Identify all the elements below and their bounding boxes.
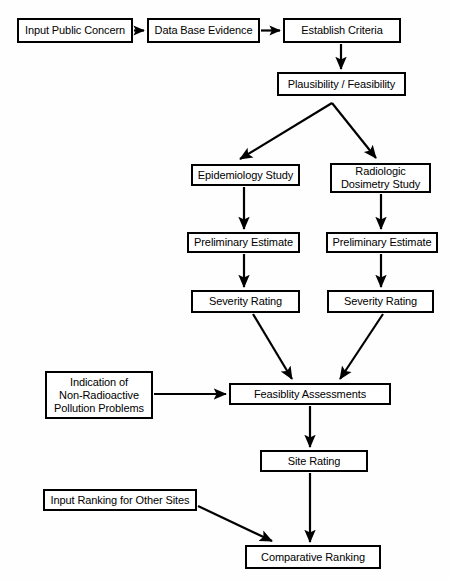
edge-severity-left-to-feasibility [253,314,292,379]
edge-plausibility-to-radiologic [332,103,376,158]
node-indication-non-radioactive[interactable]: Indication of Non-Radioactive Pollution … [45,371,153,419]
node-preliminary-estimate-left[interactable]: Preliminary Estimate [187,232,300,253]
node-epidemiology-study[interactable]: Epidemiology Study [191,164,300,186]
node-feasibility-assessments[interactable]: Feasiblity Assessments [229,383,391,405]
node-plausibility-feasibility[interactable]: Plausibility / Feasibility [277,72,406,96]
flowchart-canvas: Input Public Concern Data Base Evidence … [0,0,450,581]
node-site-rating[interactable]: Site Rating [260,450,368,472]
node-radiologic-dosimetry-study[interactable]: Radiologic Dosimetry Study [330,163,431,193]
node-input-ranking-other-sites[interactable]: Input Ranking for Other Sites [43,489,197,511]
node-preliminary-estimate-right[interactable]: Preliminary Estimate [326,232,438,253]
node-severity-rating-right[interactable]: Severity Rating [327,290,434,313]
edge-plausibility-to-epidemiology [240,103,332,159]
node-comparative-ranking[interactable]: Comparative Ranking [245,545,381,569]
node-establish-criteria[interactable]: Establish Criteria [283,18,401,43]
edge-input-ranking-to-comparative [198,506,272,541]
edge-severity-right-to-feasibility [340,314,383,379]
node-input-public-concern[interactable]: Input Public Concern [17,18,133,43]
node-data-base-evidence[interactable]: Data Base Evidence [147,18,260,43]
node-severity-rating-left[interactable]: Severity Rating [191,290,300,313]
